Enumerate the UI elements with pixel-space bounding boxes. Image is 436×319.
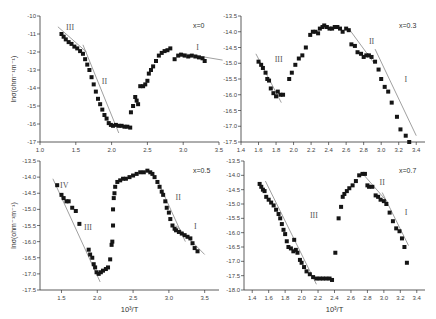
y-tick-label: -15.5 [22, 223, 36, 229]
data-point [287, 77, 291, 81]
y-tick-label: -14.5 [22, 190, 36, 196]
y-tick-label: -15.0 [226, 201, 240, 207]
data-point [131, 104, 135, 108]
x-tick-label: 2.6 [347, 295, 356, 301]
data-point [370, 55, 374, 59]
data-point [274, 94, 278, 98]
data-point [153, 175, 157, 179]
fit-line [382, 193, 408, 246]
data-point [263, 189, 267, 193]
x-tick-label: 2.8 [359, 147, 368, 153]
y-tick-label: -14.5 [223, 45, 237, 51]
data-point [290, 71, 294, 75]
data-point [145, 79, 149, 83]
data-point [386, 90, 390, 94]
data-point [404, 134, 408, 138]
data-point [197, 55, 201, 59]
x-tick-label: 2.2 [307, 147, 316, 153]
y-tick-label: -11 [28, 31, 37, 37]
data-point [349, 42, 353, 46]
x-tick-label: 3.0 [165, 295, 174, 301]
y-tick-label: -14.0 [223, 29, 237, 35]
x-tick-label: 3.0 [179, 147, 188, 153]
data-point [113, 185, 117, 189]
data-point [155, 180, 159, 184]
data-point [179, 53, 183, 57]
data-point [70, 206, 74, 210]
data-point [100, 108, 104, 112]
x-tick-label: 2.5 [143, 147, 152, 153]
region-label: III [66, 23, 74, 32]
data-point [281, 93, 285, 97]
region-label: III [275, 55, 283, 64]
x-tick-label: 2.4 [324, 147, 333, 153]
x-axis-label: 10³/T [121, 305, 139, 314]
y-axis-label: lnσ(ohm⁻¹m⁻¹) [10, 56, 18, 103]
data-point [203, 59, 207, 63]
data-point [136, 102, 140, 106]
data-point [158, 185, 162, 189]
data-point [339, 205, 343, 209]
data-point [188, 236, 192, 240]
data-point [111, 224, 115, 228]
data-point [83, 57, 87, 61]
data-point [128, 126, 132, 130]
x-tick-label: 1.6 [265, 295, 274, 301]
data-point [93, 265, 97, 269]
data-point [351, 183, 355, 187]
data-point [272, 203, 276, 207]
data-point [293, 63, 297, 67]
data-point [173, 57, 177, 61]
data-point [98, 102, 102, 106]
data-point [90, 75, 94, 79]
data-point [124, 177, 128, 181]
x-tick-label: 2.0 [289, 147, 298, 153]
y-tick-label: -17.0 [226, 258, 240, 264]
data-point [133, 95, 137, 99]
data-point [85, 63, 89, 67]
x-tick-label: 1.0 [36, 147, 45, 153]
data-point [264, 71, 268, 75]
y-tick-label: -15.5 [226, 215, 240, 221]
data-point [383, 85, 387, 89]
data-point [108, 257, 112, 261]
data-point [186, 55, 190, 59]
data-point [96, 97, 100, 101]
data-point [92, 82, 96, 86]
y-tick-label: -17.0 [223, 123, 237, 129]
y-tick-label: -13.5 [226, 158, 240, 164]
data-point [143, 82, 147, 86]
data-point [333, 251, 337, 255]
y-tick-label: -13.5 [223, 13, 237, 19]
region-label: II [380, 178, 386, 187]
data-point [277, 212, 281, 216]
plot-canvas: -10-11-12-13-14-15-16-171.01.52.02.53.03… [0, 0, 436, 319]
region-label: III [84, 223, 92, 232]
y-tick-label: -16.0 [223, 92, 237, 98]
y-tick-label: -16.0 [226, 230, 240, 236]
region-label: I [194, 222, 197, 231]
x-axis-label: 10³/T [326, 305, 344, 314]
x-tick-label: 3.5 [201, 295, 210, 301]
y-tick-label: -13 [27, 67, 36, 73]
y-tick-label: -15.0 [22, 206, 36, 212]
y-tick-label: -14.0 [22, 174, 36, 180]
data-point [363, 172, 367, 176]
data-point [304, 46, 308, 50]
y-tick-label: -17.5 [226, 273, 240, 279]
data-point [384, 202, 388, 206]
data-point [129, 110, 133, 114]
data-point [77, 222, 81, 226]
x-tick-label: 1.4 [237, 147, 246, 153]
data-point [400, 236, 404, 240]
data-point [398, 127, 402, 131]
data-point [280, 222, 284, 226]
data-point [395, 115, 399, 119]
data-point [370, 185, 374, 189]
y-tick-label: -17.5 [22, 287, 36, 293]
data-point [191, 241, 195, 245]
data-point [167, 211, 171, 215]
y-tick-label: -12 [27, 49, 36, 55]
data-point [135, 99, 139, 103]
x-tick-label: 3.2 [395, 147, 404, 153]
